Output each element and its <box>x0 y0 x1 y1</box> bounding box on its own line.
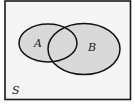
set-a-label: A <box>33 37 42 50</box>
set-b-label: B <box>87 41 96 54</box>
venn-diagram: A B S <box>0 0 135 105</box>
universe-label: S <box>12 84 20 97</box>
